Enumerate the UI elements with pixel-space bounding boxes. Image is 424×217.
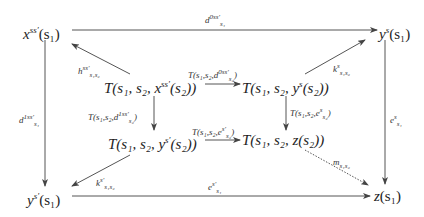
node-arg: (s₁) <box>39 192 60 208</box>
label-pre: T(s₁,s₂,d <box>188 70 218 80</box>
label-k-s: kss₁s₂ <box>333 61 350 78</box>
label-post: ) <box>231 127 234 137</box>
label-m: ms₁s₂ <box>333 157 350 171</box>
node-base: y <box>27 192 34 208</box>
label-k-sprime: ks′s₁s₂ <box>96 175 115 192</box>
label-left: d1ss′s₁ <box>19 112 39 129</box>
label-sup: 0ss′ <box>218 68 228 76</box>
node-T-x: T(s₁, s₂, xss′(s₂)) <box>104 76 196 96</box>
label-pre: T(s₁,s₂,e <box>192 127 222 137</box>
node-x-top-left: xss′(s₁) <box>23 22 60 42</box>
label-inner-bottom: T(s₁,s₂,es′s₂) <box>192 124 234 141</box>
node-pre: T(s₁, s₂, y <box>242 80 299 96</box>
label-h: hss′s₁s₂ <box>78 63 100 80</box>
node-base: y <box>379 26 386 42</box>
label-top: d0ss′s₁ <box>205 12 225 29</box>
node-arg: (s₁) <box>380 188 401 204</box>
label-pre: T(s₁,s₂,e <box>290 108 320 118</box>
label-bottom: es′s₁ <box>208 179 221 196</box>
label-post: ) <box>328 108 331 118</box>
label-sup: 1ss′ <box>24 113 34 121</box>
label-sub: s₁ <box>220 20 225 28</box>
node-sup: ss′ <box>30 25 39 35</box>
label-inner-left: T(s₁,s₂,d1ss′s₂) <box>88 109 137 126</box>
label-sub: s₁ <box>34 120 39 128</box>
node-T-ys: T(s₁, s₂, ys′(s₂)) <box>108 132 197 152</box>
label-sub: s₁ <box>216 187 221 195</box>
label-post: ) <box>134 112 137 122</box>
label-inner-top: T(s₁,s₂,d0ss′s₂) <box>188 67 237 84</box>
node-base: x <box>23 26 30 42</box>
node-sup: ss′ <box>161 79 170 89</box>
node-arg: (s₁) <box>389 26 410 42</box>
label-post: ) <box>234 70 237 80</box>
node-T-z: T(s₁, s₂, z(s₂)) <box>242 132 324 148</box>
label-sup: 1ss′ <box>118 110 128 118</box>
node-pre: T(s₁, s₂, x <box>104 80 161 96</box>
node-y-bottom-left: ys′(s₁) <box>27 188 60 208</box>
label-pre: T(s₁,s₂,d <box>88 112 118 122</box>
node-T-y: T(s₁, s₂, ys(s₂)) <box>242 76 329 96</box>
label-sub: s₁ <box>397 120 402 128</box>
node-pre: T(s₁, s₂, z(s₂)) <box>242 132 324 148</box>
label-sub: s₁s₂ <box>340 162 350 170</box>
label-sub: s₁s₂ <box>104 183 114 191</box>
node-arg: (s₁) <box>39 26 60 42</box>
label-sub: s₁s₂ <box>340 69 350 77</box>
label-right: ess₁ <box>390 112 402 129</box>
node-pre: T(s₁, s₂, y <box>108 136 165 152</box>
label-sub: s₁s₂ <box>89 71 99 79</box>
node-z-bottom-right: z(s₁) <box>374 188 401 204</box>
node-post: (s₂)) <box>303 80 329 96</box>
label-inner-right: T(s₁,s₂,ess₂) <box>290 105 331 122</box>
node-y-top-right: ys(s₁) <box>379 22 410 42</box>
label-sup: 0ss′ <box>210 13 220 21</box>
